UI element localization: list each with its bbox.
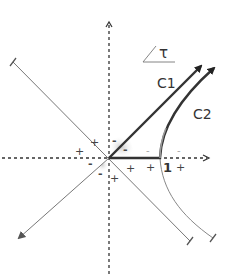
tau-label: τ [159, 44, 168, 62]
sign-plus: + [176, 161, 185, 174]
diagram-canvas: τ C1 C2 1 + + - - - - + + + + - - [0, 0, 230, 278]
sign-minus: - [123, 143, 128, 156]
sign-minus: - [112, 134, 117, 147]
sign-minus: - [98, 167, 103, 180]
sign-plus: + [146, 161, 155, 174]
unit-label: 1 [163, 160, 172, 175]
c1-label: C1 [157, 75, 176, 91]
sign-minus-light: - [177, 145, 181, 156]
sign-minus: - [88, 157, 93, 170]
sign-plus: + [126, 162, 135, 175]
sign-plus: + [110, 172, 119, 185]
light-cone-line-positive [19, 158, 109, 238]
sign-plus: + [90, 136, 99, 149]
tau-angle-marker: τ [143, 44, 175, 62]
sign-plus: + [75, 145, 84, 158]
c2-label: C2 [193, 106, 212, 122]
sign-minus-light: - [146, 145, 150, 156]
hyperbola-endpoint-tick-icon [210, 234, 216, 242]
